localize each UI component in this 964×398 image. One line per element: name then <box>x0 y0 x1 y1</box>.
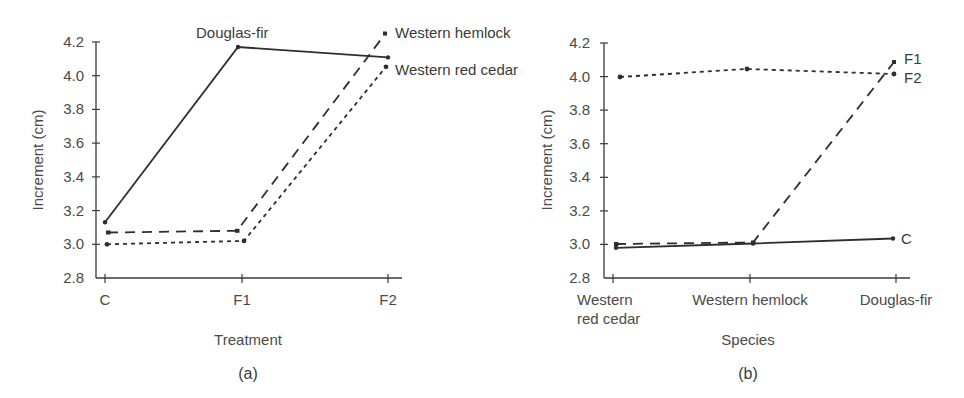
y-tick-label: 3.2 <box>569 202 590 219</box>
y-tick-label: 3.4 <box>63 168 84 185</box>
x-axis-title-a: Treatment <box>214 331 283 348</box>
series-f1 <box>616 62 894 244</box>
panel-b: 2.8 3.0 3.2 3.4 3.6 3.8 4.0 4.2 Western … <box>538 34 932 382</box>
panel-label-b: (b) <box>738 365 758 382</box>
y-tick-label: 4.2 <box>569 34 590 51</box>
y-axis-title-a: Increment (cm) <box>29 110 46 211</box>
series-label-f2: F2 <box>904 69 922 86</box>
y-tick-label: 2.8 <box>63 269 84 286</box>
data-point <box>891 236 895 240</box>
y-tick-label: 4.2 <box>63 33 84 50</box>
x-tick-label: Western hemlock <box>692 291 808 308</box>
x-tick-label: Western <box>577 291 633 308</box>
y-tick-label: 3.6 <box>63 134 84 151</box>
y-tick-label: 3.8 <box>63 100 84 117</box>
data-point <box>614 242 619 246</box>
series-label-c: C <box>901 230 912 247</box>
series-f2 <box>620 69 894 77</box>
data-point <box>235 229 240 233</box>
series-label-western-red-cedar: Western red cedar <box>395 61 518 78</box>
data-point <box>384 64 389 69</box>
panel-a: 2.8 3.0 3.2 3.4 3.6 3.8 4.0 4.2 C F1 F2 … <box>29 24 518 382</box>
data-point <box>242 239 247 244</box>
series-douglas-fir <box>105 47 388 222</box>
y-tick-label: 3.4 <box>569 168 590 185</box>
x-tick-label: C <box>100 291 111 308</box>
data-point <box>236 45 240 49</box>
data-point <box>618 75 623 80</box>
data-point <box>745 67 750 72</box>
x-axis-title-b: Species <box>721 331 774 348</box>
series-label-f1: F1 <box>904 50 922 67</box>
x-tick-label: Douglas-fir <box>860 291 933 308</box>
y-tick-label: 3.6 <box>569 135 590 152</box>
figure: 2.8 3.0 3.2 3.4 3.6 3.8 4.0 4.2 C F1 F2 … <box>0 0 964 398</box>
data-point <box>103 220 107 224</box>
data-point <box>386 55 390 59</box>
y-tick-label: 3.2 <box>63 202 84 219</box>
data-point <box>383 32 387 36</box>
panel-label-a: (a) <box>238 365 258 382</box>
x-tick-label: F1 <box>233 291 251 308</box>
y-tick-label: 2.8 <box>569 269 590 286</box>
data-point <box>106 231 111 235</box>
data-point <box>751 241 755 245</box>
data-point <box>105 242 110 247</box>
x-tick-label: F2 <box>379 291 397 308</box>
y-tick-label: 3.0 <box>569 235 590 252</box>
y-tick-label: 4.0 <box>63 67 84 84</box>
data-point <box>892 60 896 64</box>
y-axis-title-b: Increment (cm) <box>538 110 555 211</box>
y-tick-label: 3.0 <box>63 235 84 252</box>
series-label-douglas-fir: Douglas-fir <box>196 24 269 41</box>
x-tick-label: red cedar <box>577 310 640 327</box>
series-western-hemlock <box>108 34 385 233</box>
data-point <box>892 72 897 77</box>
y-tick-label: 4.0 <box>569 68 590 85</box>
y-tick-label: 3.8 <box>569 101 590 118</box>
data-point <box>614 246 618 250</box>
series-label-western-hemlock: Western hemlock <box>395 24 511 41</box>
